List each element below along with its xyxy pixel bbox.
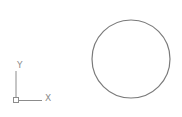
- ucs-y-label: Y: [16, 60, 23, 70]
- ucs-x-label: X: [45, 93, 51, 103]
- drawing-canvas[interactable]: Y X: [0, 0, 182, 117]
- canvas-background: [0, 0, 182, 117]
